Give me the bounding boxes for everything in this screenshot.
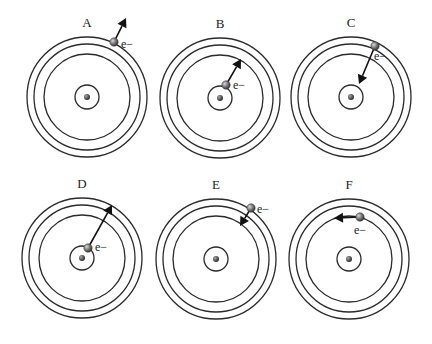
electron-icon [84,244,92,252]
electron-label: e− [374,49,386,63]
electron-icon [222,81,230,89]
panel-f: Fe− [289,177,409,319]
panel-b: Be− [160,16,280,158]
nucleus-icon [84,94,90,100]
nucleus-icon [346,256,352,262]
electron-label: e− [233,78,245,92]
electron-label: e− [121,37,133,51]
electron-icon [356,213,364,221]
atomic-transition-diagram: Ae−Be−Ce−De−Ee−Fe− [0,0,432,344]
panel-label: A [82,15,92,30]
electron-icon [110,38,118,46]
electron-label: e− [354,223,366,237]
panel-d: De− [22,176,142,318]
panel-label: B [216,16,225,31]
panel-label: E [212,177,220,192]
arrowhead-icon [334,213,343,223]
panel-label: D [77,176,86,191]
panel-a: Ae− [27,15,147,157]
electron-label: e− [95,240,107,254]
panel-label: C [347,15,356,30]
electron-label: e− [257,202,269,216]
nucleus-icon [79,255,85,261]
nucleus-icon [348,94,354,100]
panel-c: Ce− [291,15,411,157]
panel-e: Ee− [156,177,276,319]
electron-icon [247,204,255,212]
panel-label: F [345,177,352,192]
nucleus-icon [217,95,223,101]
nucleus-icon [213,256,219,262]
